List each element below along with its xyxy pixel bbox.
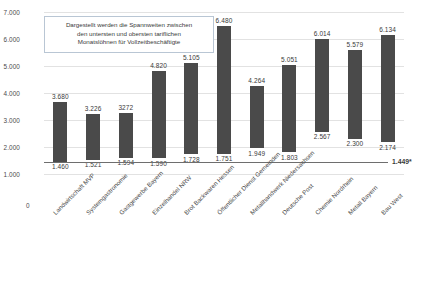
y-axis-tick-label: 5.000 bbox=[0, 63, 20, 70]
annotation-line-2: den untersten und obersten tariflichen bbox=[50, 30, 208, 39]
y-axis-tick-label: 4.000 bbox=[0, 90, 20, 97]
chart-container: 1.0002.0003.0004.0005.0006.0007.00003.68… bbox=[0, 0, 424, 304]
x-axis-category-label: Deutsche Post bbox=[281, 182, 315, 216]
bar-lower-value-label: 1.803 bbox=[281, 154, 298, 161]
chart-annotation-callout: Dargestellt werden die Spannweiten zwisc… bbox=[44, 16, 214, 53]
bar-lower-value-label: 1.949 bbox=[248, 150, 265, 157]
annotation-line-3: Monatslöhnen für Vollzeitbeschäftigte bbox=[50, 38, 208, 47]
bar-range[interactable] bbox=[250, 86, 264, 149]
y-axis-tick-label: 6.000 bbox=[0, 36, 20, 43]
bar-range[interactable] bbox=[315, 39, 329, 132]
bar-upper-value-label: 5.105 bbox=[183, 54, 200, 61]
bar-range[interactable] bbox=[381, 35, 395, 142]
bar-upper-value-label: 3272 bbox=[118, 104, 133, 111]
bar-upper-value-label: 6.014 bbox=[314, 30, 331, 37]
x-axis-category-label: Bau West bbox=[379, 192, 403, 216]
x-axis-category-label: Metall Bayern bbox=[346, 184, 378, 216]
bar-range[interactable] bbox=[86, 114, 100, 160]
bar-upper-value-label: 6.134 bbox=[379, 26, 396, 33]
bar-range[interactable] bbox=[348, 50, 362, 139]
reference-line-label: 1.449* bbox=[392, 158, 412, 165]
bar-upper-value-label: 3.226 bbox=[85, 105, 102, 112]
x-axis-category-labels: Landwirtschaft MVPSystemgastronomieGastg… bbox=[0, 204, 424, 304]
bar-lower-value-label: 1.460 bbox=[51, 163, 70, 170]
bar-lower-value-label: 2.300 bbox=[347, 140, 364, 147]
y-axis-tick-label: 3.000 bbox=[0, 117, 20, 124]
bar-range[interactable] bbox=[53, 102, 67, 162]
bar-range[interactable] bbox=[282, 65, 296, 153]
bar-range[interactable] bbox=[152, 71, 166, 158]
bar-upper-value-label: 4.820 bbox=[150, 62, 167, 69]
bar-lower-value-label: 2.567 bbox=[314, 133, 331, 140]
bar-upper-value-label: 4.264 bbox=[248, 77, 265, 84]
bar-upper-value-label: 6.480 bbox=[216, 17, 233, 24]
gridline bbox=[44, 12, 404, 13]
annotation-line-1: Dargestellt werden die Spannweiten zwisc… bbox=[50, 21, 208, 30]
bar-range[interactable] bbox=[119, 113, 133, 158]
bar-range[interactable] bbox=[184, 63, 198, 154]
y-axis-tick-label: 1.000 bbox=[0, 171, 20, 178]
bar-range[interactable] bbox=[217, 26, 231, 154]
bar-upper-value-label: 5.579 bbox=[347, 41, 364, 48]
y-axis-tick-label: 2.000 bbox=[0, 144, 20, 151]
bar-upper-value-label: 5.051 bbox=[281, 56, 298, 63]
bar-lower-value-label: 2.174 bbox=[379, 144, 396, 151]
y-axis-tick-label: 7.000 bbox=[0, 9, 20, 16]
bar-upper-value-label: 3.680 bbox=[52, 93, 69, 100]
reference-baseline bbox=[44, 162, 388, 164]
